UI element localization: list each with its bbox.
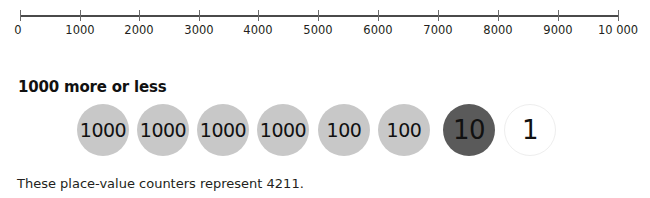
tick-label: 0 [14, 23, 21, 37]
tick-mark [618, 10, 619, 21]
tick-mark [80, 10, 81, 21]
tick-mark [20, 10, 21, 21]
tick-label: 6000 [363, 23, 392, 37]
tick-mark [378, 10, 379, 21]
tick-mark [438, 10, 439, 21]
tick-mark [258, 10, 259, 21]
tick-label: 9000 [543, 23, 572, 37]
tick-label: 4000 [243, 23, 272, 37]
section-heading: 1000 more or less [18, 78, 166, 96]
tick-label: 7000 [423, 23, 452, 37]
tick-label: 2000 [124, 23, 153, 37]
caption: These place-value counters represent 421… [17, 176, 304, 191]
tick-mark [199, 10, 200, 21]
counter-100: 100 [318, 104, 370, 156]
counter-1000: 1000 [77, 104, 129, 156]
number-line-axis [20, 15, 618, 17]
tick-label: 1000 [65, 23, 94, 37]
number-line: 010002000300040005000600070008000900010 … [0, 0, 650, 45]
tick-label: 5000 [303, 23, 332, 37]
tick-label: 10 000 [598, 23, 638, 37]
counter-100: 100 [378, 104, 430, 156]
counter-1000: 1000 [197, 104, 249, 156]
counter-1000: 1000 [257, 104, 309, 156]
tick-mark [498, 10, 499, 21]
tick-label: 3000 [184, 23, 213, 37]
tick-mark [558, 10, 559, 21]
counter-1: 1 [504, 104, 556, 156]
tick-mark [139, 10, 140, 21]
counter-10: 10 [443, 104, 495, 156]
tick-mark [318, 10, 319, 21]
counter-1000: 1000 [137, 104, 189, 156]
tick-label: 8000 [483, 23, 512, 37]
